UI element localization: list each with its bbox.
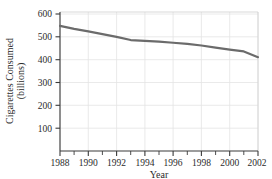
y-axis-title-line2: (billions) xyxy=(15,63,27,100)
y-tick-label-200: 200 xyxy=(38,101,53,111)
x-tick-label-2000: 2000 xyxy=(220,158,239,168)
y-axis-title-line1: Cigarettes Consumed xyxy=(4,38,15,124)
x-tick-label-1990: 1990 xyxy=(79,158,98,168)
chart-canvas: 600 500 400 300 200 100 1988 1990 1992 1… xyxy=(0,0,272,179)
plot-area-background xyxy=(60,12,258,151)
y-axis-title: Cigarettes Consumed (billions) xyxy=(4,38,27,124)
y-tick-label-500: 500 xyxy=(38,32,53,42)
y-tick-label-400: 400 xyxy=(38,55,53,65)
x-axis-tick-labels: 1988 1990 1992 1994 1996 1998 2000 2002 xyxy=(51,158,267,168)
cigarettes-consumed-line-chart: 600 500 400 300 200 100 1988 1990 1992 1… xyxy=(0,0,272,179)
x-tick-label-1988: 1988 xyxy=(51,158,70,168)
x-tick-label-2002: 2002 xyxy=(248,158,267,168)
y-tick-label-100: 100 xyxy=(38,124,53,134)
x-tick-label-1994: 1994 xyxy=(135,158,154,168)
x-tick-label-1992: 1992 xyxy=(107,158,126,168)
x-tick-label-1998: 1998 xyxy=(192,158,211,168)
y-tick-label-600: 600 xyxy=(38,9,53,19)
x-axis-title: Year xyxy=(150,169,169,179)
y-axis-ticks xyxy=(56,14,61,128)
x-tick-label-1996: 1996 xyxy=(164,158,183,168)
y-tick-label-300: 300 xyxy=(38,78,53,88)
x-axis-minor-ticks xyxy=(74,151,244,155)
y-axis-tick-labels: 600 500 400 300 200 100 xyxy=(38,9,53,133)
